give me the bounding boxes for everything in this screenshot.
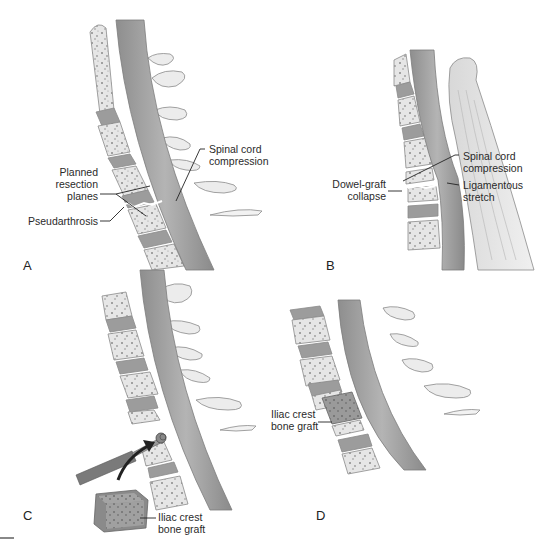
panel-letter-d: D [316,508,325,523]
label-spinal-cord-compression-a: Spinal cord compression [209,143,269,167]
panel-a: Spinal cord compression Planned resectio… [0,0,268,270]
iliac-crest-graft-block [94,490,148,532]
label-iliac-crest-bone-graft-c: Iliac crest bone graft [158,511,205,535]
label-iliac-crest-bone-graft-d: Iliac crest bone graft [271,408,318,432]
iliac-crest-graft-in-place [322,392,362,424]
label-dowel-graft-collapse: Dowel-graft collapse [322,178,386,202]
label-pseudarthrosis: Pseudarthrosis [28,215,98,227]
spine-illustration-c [0,270,268,540]
spine-illustration-d [268,270,536,540]
panel-letter-c: C [23,508,32,523]
panel-b: Dowel-graft collapse Spinal cord compres… [268,0,536,270]
panel-c: Iliac crest bone graft C [0,270,268,540]
spine-illustration-a [0,0,268,270]
spine-illustration-b [268,0,536,270]
label-ligamentous-stretch: Ligamentous stretch [463,179,523,203]
corner-mark [0,537,14,539]
label-planned-resection-planes: Planned resection planes [44,166,98,202]
label-spinal-cord-compression-b: Spinal cord compression [463,150,523,174]
panel-d: Iliac crest bone graft D [268,270,536,540]
